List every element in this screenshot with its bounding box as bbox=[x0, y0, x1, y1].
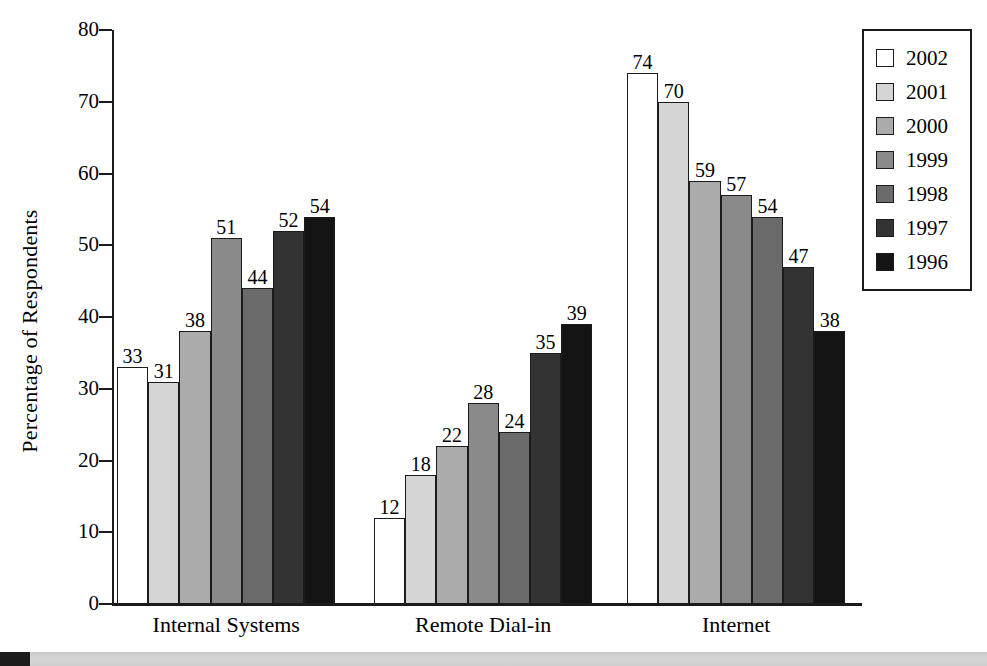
bar: 12 bbox=[374, 518, 405, 604]
bar: 57 bbox=[721, 195, 752, 604]
x-axis-category-label: Internal Systems bbox=[117, 612, 335, 638]
legend-swatch-icon bbox=[876, 253, 894, 271]
legend-item-label: 1999 bbox=[906, 150, 948, 171]
y-tick-label: 70 bbox=[55, 91, 99, 112]
y-tick-80 bbox=[99, 29, 112, 31]
bar: 51 bbox=[211, 238, 242, 604]
bar: 28 bbox=[468, 403, 499, 604]
bottom-band bbox=[0, 652, 987, 666]
bar-value-label: 39 bbox=[567, 303, 587, 323]
y-tick-label: 40 bbox=[55, 306, 99, 327]
bar: 38 bbox=[814, 331, 845, 604]
bar: 74 bbox=[627, 73, 658, 604]
y-axis-title: Percentage of Respondents bbox=[17, 51, 43, 611]
legend-item: 2002 bbox=[864, 41, 970, 75]
bar-value-label: 52 bbox=[279, 210, 299, 230]
bar-value-label: 47 bbox=[789, 246, 809, 266]
bar: 24 bbox=[499, 432, 530, 604]
bar-value-label: 44 bbox=[247, 267, 267, 287]
bar: 54 bbox=[752, 217, 783, 604]
bar-value-label: 59 bbox=[695, 160, 715, 180]
bar-value-label: 70 bbox=[664, 81, 684, 101]
legend-item-label: 1997 bbox=[906, 218, 948, 239]
bar-value-label: 54 bbox=[310, 196, 330, 216]
bar-value-label: 28 bbox=[473, 382, 493, 402]
y-tick-30 bbox=[99, 388, 112, 390]
bar-value-label: 18 bbox=[411, 454, 431, 474]
bar: 31 bbox=[148, 382, 179, 604]
y-tick-label: 10 bbox=[55, 521, 99, 542]
y-tick-label: 60 bbox=[55, 163, 99, 184]
y-tick-60 bbox=[99, 173, 112, 175]
y-tick-label: 30 bbox=[55, 378, 99, 399]
x-axis-category-label: Remote Dial-in bbox=[374, 612, 592, 638]
legend-item-label: 2002 bbox=[906, 48, 948, 69]
x-axis-category-label: Internet bbox=[627, 612, 845, 638]
bar-value-label: 54 bbox=[757, 196, 777, 216]
y-tick-70 bbox=[99, 101, 112, 103]
bar-value-label: 12 bbox=[380, 497, 400, 517]
legend-swatch-icon bbox=[876, 49, 894, 67]
bar-group: 12182228243539 bbox=[374, 30, 592, 604]
legend-swatch-icon bbox=[876, 219, 894, 237]
y-axis-line bbox=[112, 30, 114, 605]
legend-swatch-icon bbox=[876, 117, 894, 135]
bar-value-label: 38 bbox=[185, 310, 205, 330]
legend-item: 1999 bbox=[864, 143, 970, 177]
legend-item-label: 2001 bbox=[906, 82, 948, 103]
legend-item-label: 2000 bbox=[906, 116, 948, 137]
bar: 47 bbox=[783, 267, 814, 604]
bar: 22 bbox=[436, 446, 467, 604]
bar: 18 bbox=[405, 475, 436, 604]
y-tick-label: 0 bbox=[55, 593, 99, 614]
legend-item-label: 1998 bbox=[906, 184, 948, 205]
bar-value-label: 57 bbox=[726, 174, 746, 194]
legend-item-label: 1996 bbox=[906, 252, 948, 273]
bar-value-label: 35 bbox=[536, 332, 556, 352]
chart-legend: 2002200120001999199819971996 bbox=[862, 29, 972, 291]
y-tick-label: 80 bbox=[55, 19, 99, 40]
legend-item: 2000 bbox=[864, 109, 970, 143]
legend-item: 1998 bbox=[864, 177, 970, 211]
y-tick-20 bbox=[99, 460, 112, 462]
legend-swatch-icon bbox=[876, 151, 894, 169]
legend-swatch-icon bbox=[876, 83, 894, 101]
y-axis-title-holder: Percentage of Respondents bbox=[8, 18, 48, 598]
bar: 33 bbox=[117, 367, 148, 604]
y-tick-50 bbox=[99, 244, 112, 246]
bar-chart-figure: Percentage of Respondents 01020304050607… bbox=[0, 0, 987, 666]
bar-value-label: 22 bbox=[442, 425, 462, 445]
bar: 59 bbox=[689, 181, 720, 604]
bar: 39 bbox=[561, 324, 592, 604]
bottom-band-mark bbox=[0, 652, 30, 666]
bar: 70 bbox=[658, 102, 689, 604]
bar: 54 bbox=[304, 217, 335, 604]
y-tick-label: 20 bbox=[55, 450, 99, 471]
legend-swatch-icon bbox=[876, 185, 894, 203]
y-tick-10 bbox=[99, 531, 112, 533]
bar: 35 bbox=[530, 353, 561, 604]
y-tick-40 bbox=[99, 316, 112, 318]
legend-item: 2001 bbox=[864, 75, 970, 109]
bar-group: 33313851445254 bbox=[117, 30, 335, 604]
bar-value-label: 51 bbox=[216, 217, 236, 237]
bar-value-label: 74 bbox=[633, 52, 653, 72]
bar-value-label: 31 bbox=[154, 361, 174, 381]
bar: 44 bbox=[242, 288, 273, 604]
y-tick-label: 50 bbox=[55, 234, 99, 255]
bar: 52 bbox=[273, 231, 304, 604]
bar-value-label: 24 bbox=[504, 411, 524, 431]
bar: 38 bbox=[179, 331, 210, 604]
y-tick-0 bbox=[99, 603, 112, 605]
bar-value-label: 33 bbox=[123, 346, 143, 366]
bar-group: 74705957544738 bbox=[627, 30, 845, 604]
legend-item: 1997 bbox=[864, 211, 970, 245]
bar-value-label: 38 bbox=[820, 310, 840, 330]
legend-item: 1996 bbox=[864, 245, 970, 279]
